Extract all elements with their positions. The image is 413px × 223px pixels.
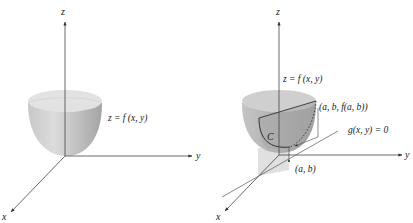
x-axis [225, 155, 279, 211]
base-point-label: (a, b) [295, 164, 316, 175]
left-figure: z y x z = f (x, y) [1, 6, 201, 222]
y-axis-label: y [195, 150, 201, 161]
right-figure: z y x z = f (x, y) C (a, b, f(a, b)) g(x… [215, 6, 410, 222]
z-axis-label: z [275, 6, 280, 17]
z-axis-label: z [60, 6, 65, 17]
y-axis-label: y [404, 149, 410, 160]
surface-label: z = f (x, y) [107, 113, 147, 124]
point-label: (a, b, f(a, b)) [319, 102, 368, 113]
x-axis-label: x [215, 211, 221, 222]
x-axis [11, 156, 65, 212]
x-axis-label: x [1, 211, 7, 222]
surface-label: z = f (x, y) [282, 74, 322, 85]
constraint-label: g(x, y) = 0 [348, 125, 388, 136]
base-point [288, 160, 290, 162]
curve-label: C [267, 131, 274, 142]
